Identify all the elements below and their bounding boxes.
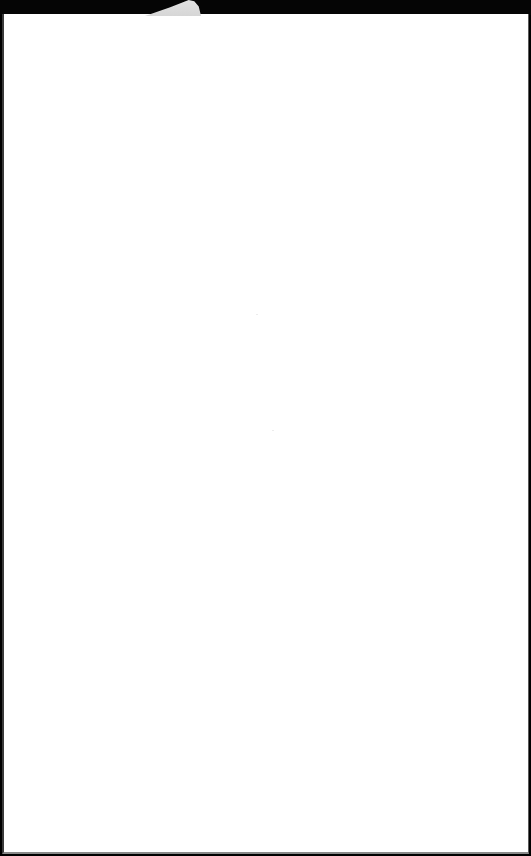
paper-speck bbox=[256, 314, 258, 315]
paper-speck bbox=[272, 430, 274, 431]
top-border-band bbox=[0, 0, 531, 15]
blank-page bbox=[2, 14, 529, 854]
